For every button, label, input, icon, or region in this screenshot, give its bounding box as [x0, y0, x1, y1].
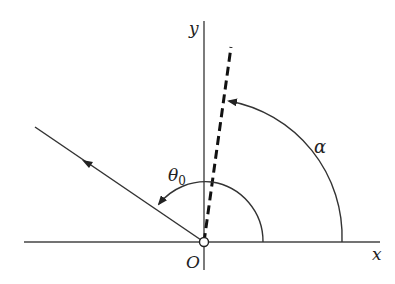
theta0-arc-right	[212, 182, 263, 242]
incident-arrow-icon	[82, 160, 93, 168]
x-axis-label: x	[372, 244, 382, 264]
alpha-arc	[229, 101, 342, 242]
angle-diagram: y x O α θ0	[0, 0, 395, 284]
dashed-line	[204, 47, 231, 242]
origin-label: O	[186, 252, 200, 272]
alpha-label: α	[314, 136, 326, 157]
origin-point	[200, 238, 209, 247]
theta0-label: θ0	[168, 165, 186, 188]
y-axis-label: y	[188, 18, 199, 38]
